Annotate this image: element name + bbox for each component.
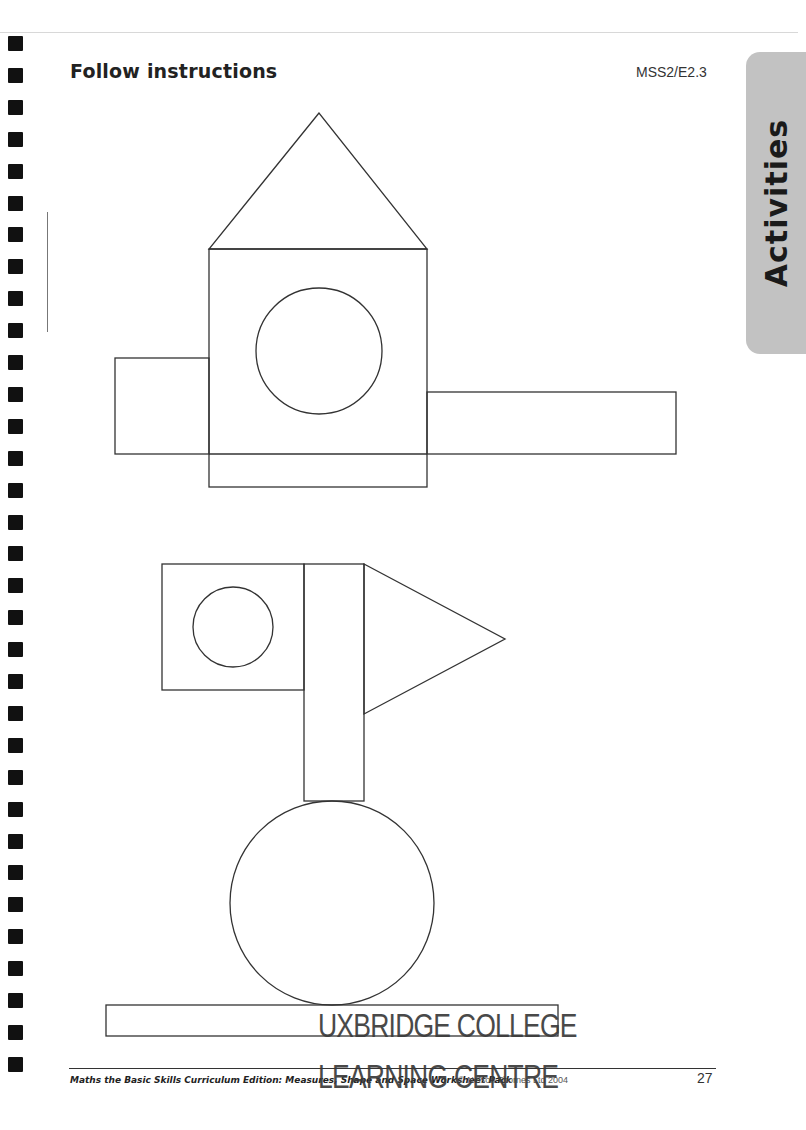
rect-shape (115, 358, 209, 454)
circle-shape (256, 288, 382, 414)
triangle-shape (364, 564, 505, 714)
triangle-shape (209, 113, 427, 249)
library-stamp-line-1: UXBRIDGE COLLEGE (318, 1006, 577, 1045)
rect-shape (209, 249, 427, 487)
page-number: 27 (697, 1070, 713, 1086)
figure-1-house (115, 113, 676, 487)
library-stamp-line-2: LEARNING CENTRE (318, 1057, 558, 1096)
rect-shape (427, 392, 676, 454)
circle-shape (193, 587, 273, 667)
circle-shape (230, 801, 434, 1005)
figure-2-robot (106, 564, 558, 1036)
rect-shape (162, 564, 304, 690)
rect-shape (304, 564, 364, 801)
